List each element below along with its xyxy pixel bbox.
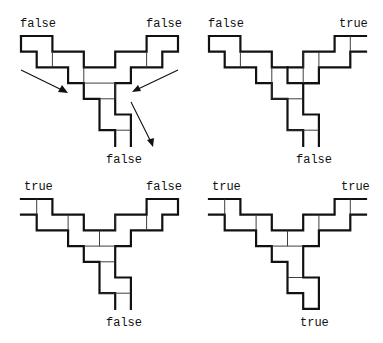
panel-4-bottom-label: true <box>300 316 329 330</box>
panel-3-top-right-label: false <box>146 180 182 194</box>
panel-4-top-left-label: true <box>212 180 241 194</box>
panel-1-top-right-label: false <box>146 17 182 31</box>
panel-2-top-right-label: true <box>339 17 368 31</box>
panel-2-bottom-label: false <box>296 153 332 167</box>
panel-4-top-right-label: true <box>341 180 370 194</box>
diagram-canvas: false false false false true false <box>0 0 383 343</box>
arrow-icon <box>21 70 68 93</box>
panel-3 <box>21 199 178 309</box>
panel-1-bottom-label: false <box>106 153 142 167</box>
panel-2-top-left-label: false <box>208 17 244 31</box>
panel-3-top-left-label: true <box>24 180 53 194</box>
arrow-icon <box>131 102 154 147</box>
panel-1-top-left-label: false <box>20 17 56 31</box>
panel-1 <box>21 36 178 146</box>
panel-2 <box>209 36 366 146</box>
arrow-icon <box>132 70 178 92</box>
panel-3-bottom-label: false <box>106 316 142 330</box>
panel-4 <box>209 199 366 309</box>
